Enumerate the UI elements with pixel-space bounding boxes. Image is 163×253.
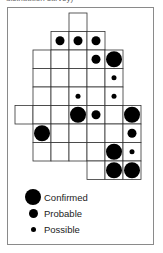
confirmed-marker (124, 107, 140, 123)
grid-cell (51, 87, 69, 106)
confirmed-marker (124, 162, 140, 178)
grid-cell (51, 106, 69, 125)
grid-cell (69, 50, 87, 69)
probable-dot-icon (29, 209, 38, 218)
legend: Confirmed Probable Possible (24, 189, 88, 237)
legend-label: Possible (44, 224, 80, 235)
possible-marker (112, 75, 117, 80)
confirmed-marker (34, 125, 50, 141)
legend-item-confirmed: Confirmed (24, 189, 88, 205)
grid-cell (51, 124, 69, 143)
legend-item-possible: Possible (24, 221, 88, 237)
grid-cell (105, 124, 123, 143)
legend-label: Probable (44, 208, 82, 219)
probable-marker (92, 110, 101, 119)
confirmed-dot-icon (25, 189, 41, 205)
confirmed-marker (106, 162, 122, 178)
grid-cell (87, 87, 105, 106)
grid-cell (87, 161, 105, 180)
grid-cell (51, 69, 69, 88)
grid-cell (87, 124, 105, 143)
legend-label: Confirmed (44, 192, 88, 203)
probable-marker (128, 129, 137, 138)
confirmed-marker (70, 107, 86, 123)
grid-cell (87, 69, 105, 88)
probable-marker (92, 36, 101, 45)
grid-cell (69, 143, 87, 162)
grid-cell (69, 13, 87, 32)
possible-marker (112, 94, 117, 99)
grid-cell (33, 50, 51, 69)
grid-cell (69, 124, 87, 143)
grid-cell (33, 143, 51, 162)
grid-cell (69, 69, 87, 88)
grid-cell (87, 143, 105, 162)
possible-dot-icon (31, 227, 36, 232)
confirmed-marker (106, 51, 122, 67)
grid-cell (105, 106, 123, 125)
probable-marker (56, 36, 65, 45)
grid-cell (51, 50, 69, 69)
grid-cell (33, 69, 51, 88)
probable-marker (74, 36, 83, 45)
probable-marker (92, 55, 101, 64)
legend-item-probable: Probable (24, 205, 88, 221)
confirmed-marker (106, 144, 122, 160)
grid-cell (33, 87, 51, 106)
possible-marker (130, 149, 135, 154)
grid-cell (33, 106, 51, 125)
grid-cell (15, 106, 33, 125)
grid-cell (51, 143, 69, 162)
possible-marker (76, 94, 81, 99)
